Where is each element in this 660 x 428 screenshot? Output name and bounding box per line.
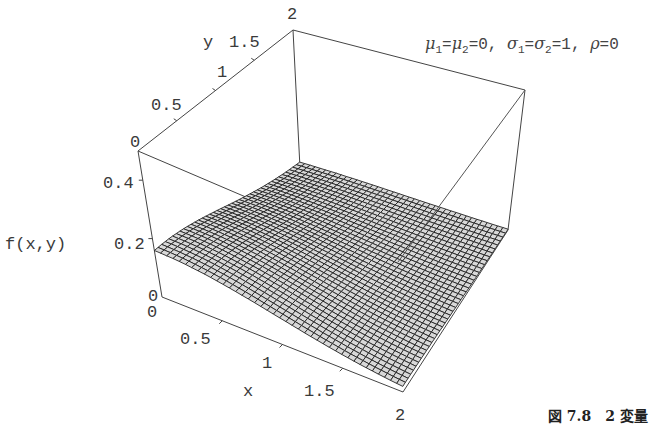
equals-zero: =0, [469, 36, 507, 54]
subscript: 2 [545, 44, 552, 56]
rho-symbol: ρ [590, 34, 599, 53]
y-axis-label: y [203, 34, 213, 51]
sigma-symbol: σ [507, 34, 518, 53]
surface-plot [0, 0, 660, 428]
subscript: 2 [462, 44, 469, 56]
sigma-symbol: σ [534, 34, 545, 53]
x-tick-05: 0.5 [180, 331, 211, 348]
equals-zero: =0 [600, 36, 619, 54]
mu-symbol: μ [425, 34, 435, 53]
figure-caption: 図 7.8 2 変量 [548, 405, 648, 425]
x-tick-2: 2 [395, 407, 405, 424]
mu-symbol: μ [452, 34, 462, 53]
z-tick-04: 0.4 [103, 175, 134, 192]
surface-mesh [154, 162, 508, 386]
y-tick-05: 0.5 [151, 97, 182, 114]
y-tick-2: 2 [287, 6, 297, 23]
subscript: 1 [518, 44, 525, 56]
y-tick-15: 1.5 [229, 34, 260, 51]
y-tick-0: 0 [130, 134, 140, 151]
z-tick-02: 0.2 [114, 236, 145, 253]
parameter-annotation: μ1=μ2=0, σ1=σ2=1, ρ=0 [425, 36, 619, 56]
x-axis-label: x [243, 383, 253, 400]
equals: = [442, 36, 452, 54]
x-tick-1: 1 [262, 355, 272, 372]
x-tick-0: 0 [147, 304, 157, 321]
x-tick-15: 1.5 [304, 383, 335, 400]
y-tick-1: 1 [217, 64, 227, 81]
z-axis-label: f(x,y) [5, 236, 66, 253]
equals-one: =1, [552, 36, 590, 54]
equals: = [525, 36, 535, 54]
